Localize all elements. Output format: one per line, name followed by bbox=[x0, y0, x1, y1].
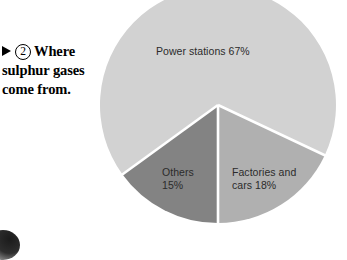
pie-label-others-line1: Others bbox=[162, 166, 194, 179]
pie-label-others-line2: 15% bbox=[162, 179, 194, 192]
pie-label-factories-line2: cars 18% bbox=[232, 179, 296, 192]
pie-label-factories-line1: Factories and bbox=[232, 166, 296, 179]
pie-label-others: Others 15% bbox=[162, 166, 194, 192]
pie-label-power-stations: Power stations 67% bbox=[156, 45, 250, 58]
pie-label-power-stations-line1: Power stations 67% bbox=[156, 45, 250, 58]
pie-label-factories-and-cars: Factories and cars 18% bbox=[232, 166, 296, 192]
